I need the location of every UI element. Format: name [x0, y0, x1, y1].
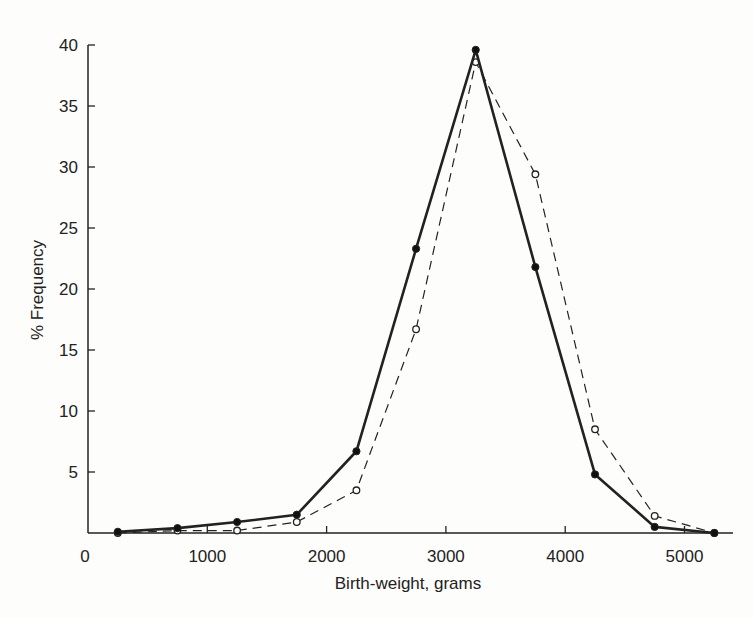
filled-circle-marker	[234, 518, 241, 525]
x-tick-label: 5000	[666, 547, 704, 566]
open-circle-marker	[651, 513, 658, 520]
open-circle-marker	[234, 527, 241, 534]
y-tick-label: 20	[59, 280, 78, 299]
x-tick-label: 2000	[308, 547, 346, 566]
y-tick-label: 30	[59, 158, 78, 177]
open-circle-marker	[293, 519, 300, 526]
x-tick-label: 4000	[546, 547, 584, 566]
y-tick-label: 25	[59, 219, 78, 238]
series-group	[114, 46, 718, 536]
x-tick-label: 0	[80, 547, 89, 566]
y-tick-label: 5	[69, 463, 78, 482]
y-axis-title: % Frequency	[28, 239, 47, 340]
filled-circle-marker	[472, 46, 479, 53]
x-tick-label: 1000	[188, 547, 226, 566]
filled-circle-marker	[174, 525, 181, 532]
x-ticks: 010002000300040005000	[80, 526, 703, 566]
x-tick-label: 3000	[427, 547, 465, 566]
solid-series-line	[118, 50, 715, 533]
filled-circle-marker	[711, 529, 718, 536]
filled-circle-marker	[651, 523, 658, 530]
filled-circle-marker	[114, 528, 121, 535]
open-circle-marker	[592, 426, 599, 433]
open-circle-marker	[413, 326, 420, 333]
axes	[88, 45, 733, 533]
y-tick-label: 10	[59, 402, 78, 421]
open-circle-marker	[353, 487, 360, 494]
y-tick-label: 40	[59, 36, 78, 55]
x-axis-title: Birth-weight, grams	[335, 574, 481, 593]
open-circle-marker	[532, 171, 539, 178]
filled-circle-marker	[293, 511, 300, 518]
y-tick-label: 15	[59, 341, 78, 360]
dashed-series-line	[118, 62, 715, 533]
filled-circle-marker	[353, 448, 360, 455]
filled-circle-marker	[532, 263, 539, 270]
line-chart: 510152025303540 010002000300040005000 % …	[0, 0, 753, 618]
y-tick-label: 35	[59, 97, 78, 116]
y-ticks: 510152025303540	[59, 36, 95, 482]
filled-circle-marker	[412, 245, 419, 252]
filled-circle-marker	[591, 471, 598, 478]
